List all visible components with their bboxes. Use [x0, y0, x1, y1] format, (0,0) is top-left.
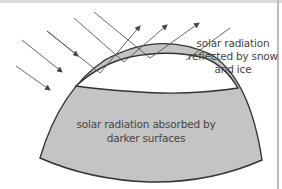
incoming-ray: [22, 40, 62, 72]
incoming-ray: [74, 18, 124, 62]
reflected-radiation-label: solar radiation reflected by snow and ic…: [181, 37, 282, 76]
incoming-ray: [16, 66, 50, 90]
absorbed-radiation-label: solar radiation absorbed by darker surfa…: [66, 117, 226, 145]
incoming-ray: [94, 12, 150, 58]
incoming-rays-absorbed: [16, 31, 78, 90]
albedo-diagram: [0, 0, 282, 189]
